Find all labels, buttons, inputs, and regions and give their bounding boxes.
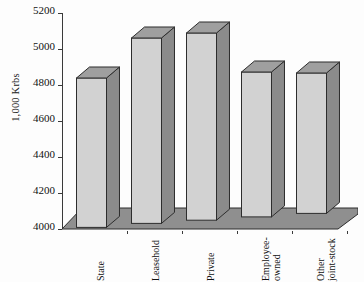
bar-front xyxy=(242,72,272,217)
x-axis-label-line: Employee- xyxy=(260,237,271,281)
bar-front xyxy=(77,78,107,227)
x-axis-label-employee-owned: Employee-owned xyxy=(260,237,282,281)
x-axis-label-line: Other xyxy=(315,238,326,281)
y-tick-label: 4000 xyxy=(33,221,55,232)
bar-other-joint-stock xyxy=(296,74,326,214)
y-tick-label: 4400 xyxy=(33,149,55,160)
y-tick-label: 5200 xyxy=(33,5,55,16)
bar-side xyxy=(326,62,339,213)
bar-leasehold xyxy=(131,39,161,224)
bar-3d-shape xyxy=(131,26,176,224)
y-tick-label: 4200 xyxy=(33,185,55,196)
y-tick-5000: 5000 xyxy=(0,49,62,50)
x-axis-labels: StateLeaseholdPrivateEmployee-ownedOther… xyxy=(62,231,360,282)
x-tick-mark xyxy=(347,231,348,234)
bar-front xyxy=(297,73,327,213)
y-tick-5200: 5200 xyxy=(0,13,62,14)
x-tick-mark xyxy=(182,231,183,234)
bar-side xyxy=(216,22,229,220)
bar-private xyxy=(186,34,216,221)
bar-3d-shape xyxy=(186,21,231,221)
bar-front xyxy=(187,33,217,220)
x-tick-mark xyxy=(292,231,293,234)
y-tick-label: 4600 xyxy=(33,113,55,124)
x-axis-label-line: owned xyxy=(271,237,282,281)
x-axis-label-line: Leasehold xyxy=(150,240,161,281)
plot-area xyxy=(62,10,360,230)
bar-employee-owned xyxy=(241,73,271,218)
y-axis-title: 1,000 Krbs xyxy=(10,53,21,143)
bar-chart: 1,000 Krbs 4000420044004600480050005200 … xyxy=(0,0,364,282)
x-axis-label-state: State xyxy=(95,261,106,281)
y-tick-4800: 4800 xyxy=(0,85,62,86)
y-tick-4600: 4600 xyxy=(0,121,62,122)
x-tick-mark xyxy=(127,231,128,234)
bar-3d-shape xyxy=(296,61,341,214)
bar-3d-shape xyxy=(76,66,121,228)
bar-side xyxy=(271,61,284,217)
bar-state xyxy=(76,79,106,228)
y-tick-label: 4800 xyxy=(33,77,55,88)
x-axis-label-line: State xyxy=(95,261,106,281)
bar-3d-shape xyxy=(241,60,286,218)
x-axis-label-line: Private xyxy=(205,253,216,281)
bar-side xyxy=(106,67,119,227)
y-tick-4200: 4200 xyxy=(0,193,62,194)
y-tick-4000: 4000 xyxy=(0,229,62,230)
x-axis-label-private: Private xyxy=(205,253,216,281)
x-axis-label-other-joint-stock: Otherjoint-stock xyxy=(315,238,337,281)
x-axis-label-line: joint-stock xyxy=(326,238,337,281)
y-tick-4400: 4400 xyxy=(0,157,62,158)
x-tick-mark xyxy=(237,231,238,234)
y-tick-label: 5000 xyxy=(33,41,55,52)
x-axis-label-leasehold: Leasehold xyxy=(150,240,161,281)
bar-front xyxy=(132,38,162,223)
bar-side xyxy=(161,27,174,223)
